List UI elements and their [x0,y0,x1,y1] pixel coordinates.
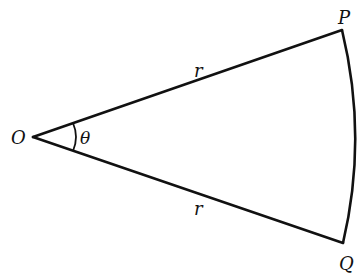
label-p: P [337,7,351,28]
label-r-top: r [194,60,204,81]
arc-pq [342,30,355,243]
label-theta: θ [80,128,90,148]
label-r-bottom: r [194,198,204,219]
label-o: O [11,127,26,148]
angle-arc [73,123,76,151]
sector-diagram: O θ P Q r r [0,0,364,273]
radius-oq [33,137,343,243]
radius-op [33,30,342,137]
label-q: Q [339,253,354,273]
